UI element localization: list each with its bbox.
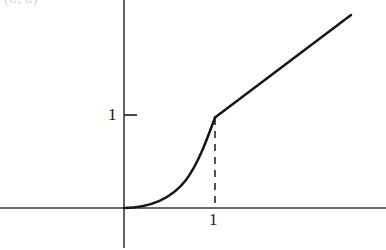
convex-curve-segment xyxy=(124,118,215,209)
axes-group xyxy=(0,0,386,248)
y-axis-tick-label-1: 1 xyxy=(108,106,117,123)
plot-canvas xyxy=(0,0,386,250)
curve-group xyxy=(124,15,351,208)
figure-container: (b, a) 1 1 xyxy=(0,0,386,250)
x-axis-tick-label-1: 1 xyxy=(209,211,218,228)
linear-ray-segment xyxy=(215,15,351,118)
